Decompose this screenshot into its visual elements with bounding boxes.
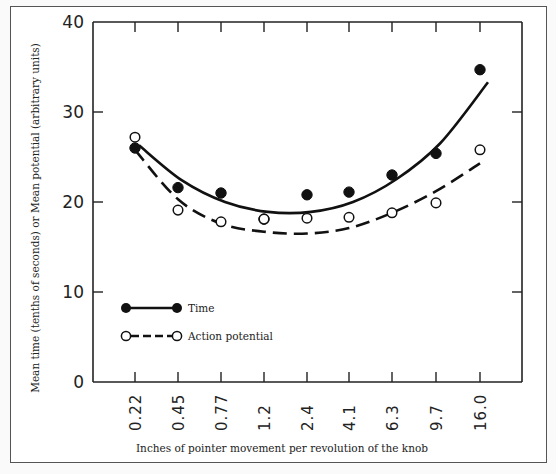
x-tick-label: 9.7: [428, 404, 446, 431]
action-potential-data-point: [130, 132, 140, 142]
filled-circle-icon: [172, 303, 182, 313]
time-data-point: [216, 188, 226, 198]
x-tick-label: 6.3: [384, 404, 402, 431]
x-tick-label: 16.0: [472, 394, 490, 431]
y-axis-label: Mean time (tenths of seconds) or Mean po…: [29, 43, 41, 393]
action-potential-data-point: [431, 198, 441, 208]
chart: 010203040 0.220.450.771.22.44.16.39.716.…: [0, 0, 556, 474]
legend-label-time: Time: [188, 302, 215, 314]
x-tick-label: 0.45: [170, 394, 188, 431]
y-tick-label: 30: [62, 102, 84, 122]
time-data-point: [130, 143, 140, 153]
x-tick-label: 4.1: [341, 404, 359, 431]
legend-item-time: Time: [121, 302, 215, 314]
plot-area: [93, 22, 522, 382]
time-data-point: [475, 65, 485, 75]
y-tick-label: 10: [62, 282, 84, 302]
y-tick-label: 20: [62, 192, 84, 212]
x-tick-label: 0.22: [127, 394, 145, 431]
action-potential-data-point: [216, 217, 226, 227]
y-tick-label: 40: [62, 12, 84, 32]
action-potential-data-point: [344, 213, 354, 223]
action-potential-data-point: [259, 214, 269, 224]
time-data-point: [431, 148, 441, 158]
x-tick-label: 1.2: [256, 404, 274, 431]
x-tick-label: 0.77: [213, 394, 231, 431]
open-circle-icon: [172, 331, 181, 340]
legend: Time Action potential: [121, 302, 274, 342]
time-data-point: [344, 187, 354, 197]
time-data-point: [173, 182, 183, 192]
x-axis-label: Inches of pointer movement per revolutio…: [136, 442, 428, 454]
legend-item-action-potential: Action potential: [121, 330, 273, 342]
legend-label-action-potential: Action potential: [187, 330, 274, 342]
action-potential-data-point: [302, 213, 312, 223]
time-data-point: [387, 170, 397, 180]
action-potential-data-point: [475, 145, 485, 155]
action-potential-data-point: [387, 208, 397, 218]
action-potential-data-point: [173, 205, 183, 215]
time-data-point: [302, 190, 312, 200]
x-tick-label: 2.4: [299, 404, 317, 431]
x-axis-ticks: 0.220.450.771.22.44.16.39.716.0: [127, 22, 490, 431]
open-circle-icon: [121, 331, 130, 340]
y-tick-label: 0: [73, 372, 84, 392]
filled-circle-icon: [121, 303, 131, 313]
